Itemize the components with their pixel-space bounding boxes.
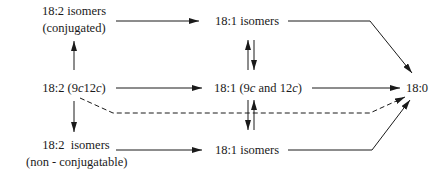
node-18-1-bot-label: 18:1 isomers — [215, 143, 279, 157]
node-18-1-isomers-bottom: 18:1 isomers — [206, 143, 288, 157]
mid-prefix: 18:1 ( — [214, 81, 244, 95]
node-18-1-isomers-top: 18:1 isomers — [206, 14, 288, 28]
arrow-18-1-bot-to-stearic — [288, 100, 410, 150]
node-18-1-top-label: 18:1 isomers — [215, 14, 279, 28]
mid-suffix: ) — [298, 81, 302, 95]
node-conjugated-isomers: 18:2 isomers (conjugated) — [36, 4, 112, 35]
node-nonconj-line2: (non - conjugatable) — [26, 155, 126, 169]
dashed-bypass-to-stearic — [80, 97, 405, 113]
mid-pos2: 12 — [280, 81, 293, 95]
node-nonconjugatable-isomers: 18:2 isomers (non - conjugatable) — [26, 138, 126, 169]
node-18-1-9c-12c: 18:1 (9c and 12c) — [206, 81, 310, 95]
arrow-18-1-top-to-stearic — [288, 21, 412, 73]
node-conjugated-line1: 18:2 isomers — [36, 4, 112, 18]
mid-and: and — [255, 81, 279, 95]
node-nonconj-line1: 18:2 isomers — [26, 138, 126, 152]
node-linoleic: 18:2 (9c12c) — [34, 81, 114, 95]
node-stearic-18-0: 18:0 — [402, 81, 432, 95]
node-conjugated-line2: (conjugated) — [36, 21, 112, 35]
linoleic-pos2: 12 — [84, 81, 97, 95]
linoleic-prefix: 18:2 ( — [42, 81, 72, 95]
linoleic-suffix: ) — [102, 81, 106, 95]
node-stearic-label: 18:0 — [406, 81, 428, 95]
